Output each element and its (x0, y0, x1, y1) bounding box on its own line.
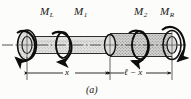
disc-middle (104, 35, 116, 56)
disc-right (163, 31, 181, 60)
torque-label-ML: ML (40, 6, 54, 19)
torque-label-ML-base: M (40, 5, 49, 17)
torque-label-M2-base: M (134, 5, 143, 17)
torque-label-MR-base: M (160, 5, 169, 17)
figure-caption: (a) (86, 84, 98, 95)
dimension-extension-lines (27, 57, 172, 80)
disc-left (18, 30, 37, 60)
dimension-label-x: x (65, 68, 69, 77)
torque-label-ML-sub: L (49, 11, 53, 19)
torque-label-MR-sub: R (169, 11, 174, 19)
torque-label-M1: M1 (74, 6, 87, 19)
torque-label-M2-sub: 2 (143, 11, 147, 19)
torque-label-M2: M2 (134, 6, 147, 19)
torque-label-MR: MR (160, 6, 174, 19)
torque-label-M1-base: M (74, 5, 83, 17)
dimension-label-l-minus-x: ℓ − x (124, 68, 142, 77)
torque-label-M1-sub: 1 (83, 11, 87, 19)
torsion-shaft-figure: ML M1 M2 MR x ℓ − x (a) (0, 0, 191, 99)
